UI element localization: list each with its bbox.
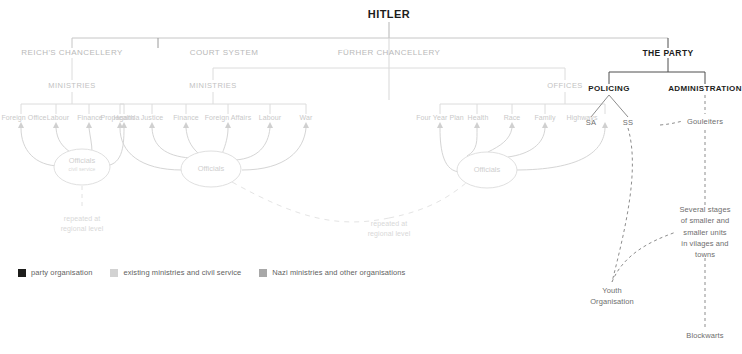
legend-swatch-nazi xyxy=(259,269,267,277)
node-reichs-chancellery[interactable]: REICH'S CHANCELLERY xyxy=(21,48,123,57)
node-ss[interactable]: SS xyxy=(623,119,633,128)
group-reich-ministries[interactable]: MINISTRIES xyxy=(48,82,95,91)
legend: party organisation existing ministries a… xyxy=(18,268,405,277)
leaf-war[interactable]: War xyxy=(300,114,313,122)
officials-offices-label: Officials xyxy=(474,166,501,175)
curve-into-gouleiters xyxy=(660,121,683,125)
leaf-labour-2[interactable]: Labour xyxy=(259,114,281,122)
node-hitler[interactable]: HITLER xyxy=(368,8,410,21)
note-repeated-left: repeated atregional level xyxy=(61,214,104,234)
node-youth-organisation[interactable]: YouthOrganisation xyxy=(590,285,634,308)
leaf-race[interactable]: Race xyxy=(504,114,521,122)
leaf-four-year-plan[interactable]: Four Year Plan xyxy=(416,114,464,122)
legend-swatch-existing xyxy=(110,269,118,277)
node-several-stages: Several stagesof smaller andsmaller unit… xyxy=(679,204,730,260)
dashed-ministries-to-note xyxy=(232,182,389,222)
legend-item-nazi: Nazi ministries and other organisations xyxy=(259,268,405,277)
leaf-finance[interactable]: Finance xyxy=(77,114,103,122)
node-the-party[interactable]: THE PARTY xyxy=(642,48,693,58)
legend-label-nazi: Nazi ministries and other organisations xyxy=(272,268,405,277)
fm-bracket-drops xyxy=(120,104,306,114)
node-sa[interactable]: SA xyxy=(586,119,596,128)
legend-label-existing: existing ministries and civil service xyxy=(123,268,241,277)
group-furher-offices[interactable]: OFFICES xyxy=(547,82,583,91)
node-blockwarts[interactable]: Blockwarts xyxy=(686,330,723,341)
legend-item-existing: existing ministries and civil service xyxy=(110,268,241,277)
node-administration[interactable]: ADMINISTRATION xyxy=(668,84,742,93)
group-furher-ministries[interactable]: MINISTRIES xyxy=(189,82,236,91)
policing-to-ss xyxy=(609,95,628,117)
node-gouleiters[interactable]: Gouleiters xyxy=(687,118,723,127)
fm-officials-arrowheads xyxy=(117,122,309,128)
leaf-health-2[interactable]: Health xyxy=(468,114,489,122)
officials-reich-sub: civil service xyxy=(69,167,96,173)
party-bus-drops xyxy=(609,72,705,84)
leaf-foreign-affairs[interactable]: Foreign Affairs xyxy=(205,114,252,122)
leaf-propaganda[interactable]: Propaganda xyxy=(100,114,139,122)
leaf-justice[interactable]: Justice xyxy=(141,114,164,122)
leaf-finance-2[interactable]: Finance xyxy=(173,114,199,122)
officials-reich-label: Officials civil service xyxy=(69,157,96,173)
officials-ministries-label: Officials xyxy=(198,165,225,174)
leaf-labour[interactable]: Labour xyxy=(47,114,69,122)
node-policing[interactable]: POLICING xyxy=(588,84,629,93)
legend-item-party: party organisation xyxy=(18,268,92,277)
legend-swatch-party xyxy=(18,269,26,277)
legend-label-party: party organisation xyxy=(31,268,92,277)
ss-to-youth xyxy=(612,128,632,282)
fo-bracket-drops xyxy=(440,104,605,114)
leaf-family[interactable]: Family xyxy=(534,114,555,122)
leaf-foreign-office[interactable]: Foreign Office xyxy=(1,114,46,122)
node-court-system[interactable]: COURT SYSTEM xyxy=(190,48,259,57)
dashed-offices-to-note xyxy=(389,183,466,218)
reich-officials-arrowheads xyxy=(18,122,127,128)
officials-reich-title: Officials xyxy=(69,156,96,165)
node-furher-chancellery[interactable]: FÜRHER CHANCELLERY xyxy=(338,48,441,57)
note-repeated-right: repeated atregional level xyxy=(368,219,411,239)
youth-to-stages xyxy=(612,232,676,282)
reich-bracket-drops xyxy=(21,104,124,114)
fo-officials-arrowheads xyxy=(437,122,608,128)
